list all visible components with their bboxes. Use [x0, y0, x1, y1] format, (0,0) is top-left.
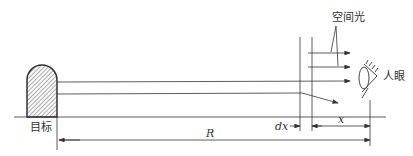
light-path-1 — [57, 81, 350, 82]
target-shape — [27, 65, 57, 117]
space-light-pointer-2 — [336, 26, 338, 66]
range-label: R — [205, 127, 214, 140]
x-label: x — [338, 113, 345, 126]
eye-icon — [359, 60, 378, 98]
dx-label: dx — [275, 120, 289, 133]
human-eye-label: 人眼 — [383, 70, 405, 83]
visibility-diagram: 空间光 人眼 目标 dx x R — [0, 0, 413, 156]
scattered-path — [302, 93, 338, 103]
target-label: 目标 — [30, 120, 52, 134]
light-path-2 — [57, 93, 302, 94]
space-light-pointer-1 — [331, 26, 336, 52]
space-light-label: 空间光 — [332, 10, 365, 24]
